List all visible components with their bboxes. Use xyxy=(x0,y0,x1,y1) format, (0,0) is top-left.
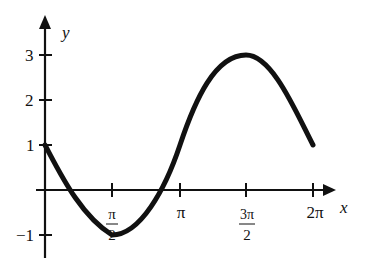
y-tick-label-3: 3 xyxy=(25,46,34,65)
x-tick-label-3pi-half-num: 3π xyxy=(240,207,254,222)
sine-graph: y x 3 2 1 −1 π 2 π 3π 2 2π xyxy=(0,0,370,264)
y-axis-arrow-icon xyxy=(39,15,51,29)
x-tick-label-pi-half-den: 2 xyxy=(108,227,116,243)
x-tick-label-3pi-half-den: 2 xyxy=(243,227,251,243)
y-tick-label-2: 2 xyxy=(25,91,34,110)
x-axis-arrow-icon xyxy=(323,184,336,196)
x-tick-label-2pi: 2π xyxy=(306,203,324,222)
y-tick-label-1: 1 xyxy=(26,136,35,155)
y-tick-label-neg1: −1 xyxy=(16,226,34,245)
x-tick-label-pi-half-num: π xyxy=(108,206,116,222)
y-axis-label: y xyxy=(60,23,70,42)
x-tick-label-pi: π xyxy=(177,203,186,222)
x-axis-label: x xyxy=(339,198,348,217)
